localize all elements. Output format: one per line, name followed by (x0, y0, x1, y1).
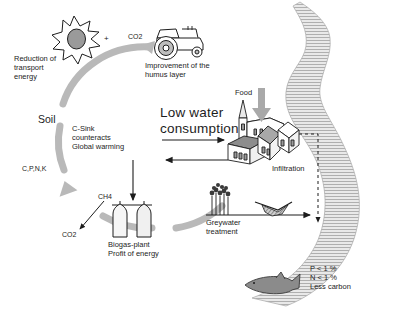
greywater-treatment-label: Greywater treatment (206, 219, 241, 237)
diagram-graphics (0, 0, 420, 313)
food-label: Food (235, 89, 252, 98)
soil-label: Soil (38, 113, 56, 125)
food-down-arrow-icon (252, 88, 271, 122)
co2-top-label: CO2 (128, 33, 142, 41)
infiltration-label: Infiltration (272, 165, 305, 174)
church-steeple-icon (239, 100, 247, 140)
plus-sign: + (104, 34, 109, 43)
low-water-consumption-label: Low water consumption (160, 105, 239, 137)
co2-bottom-label: CO2 (62, 231, 76, 239)
c-sink-label: C-Sink counteracts Global warming (72, 125, 124, 152)
humus-layer-label: Improvement of the humus layer (145, 62, 210, 80)
cpnk-label: C,P,N,K (22, 165, 46, 173)
diagram-canvas: + CO2 Reduction of transport energy Impr… (0, 0, 420, 313)
tractor-icon (155, 26, 204, 60)
cycle-arrowhead-icon (55, 41, 155, 197)
ch4-label: CH4 (98, 193, 112, 201)
reduction-transport-energy-label: Reduction of transport energy (14, 55, 56, 82)
sun-starburst-icon (52, 16, 100, 64)
infiltration-basin-icon (255, 202, 292, 216)
water-quality-label: P < 1 % N < 1 % Less carbon (310, 265, 351, 292)
biogas-tanks-icon (112, 201, 152, 237)
biogas-plant-label: Biogas-plant Profit of energy (108, 241, 159, 259)
